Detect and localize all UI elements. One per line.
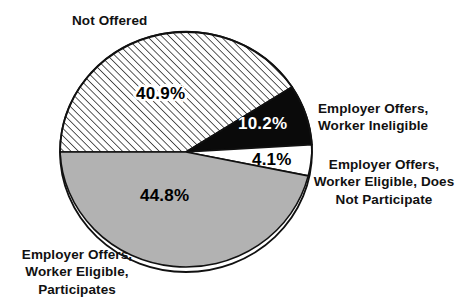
slice-value-employer-offers-worker-eligible-participates: 44.8% bbox=[140, 186, 189, 206]
slice-label-not-offered: Not Offered bbox=[72, 12, 147, 29]
slice-value-not-offered: 40.9% bbox=[136, 84, 185, 104]
slice-label-employer-offers-worker-ineligible: Employer Offers, Worker Ineligible bbox=[318, 100, 428, 135]
slice-value-employer-offers-worker-ineligible: 10.2% bbox=[238, 114, 287, 134]
slice-label-employer-offers-worker-eligible-participates: Employer Offers, Worker Eligible, Partic… bbox=[2, 246, 152, 298]
pie-chart-figure: Not Offered Employer Offers, Worker Inel… bbox=[0, 0, 473, 305]
slice-label-employer-offers-worker-eligible-does-not-participate: Employer Offers, Worker Eligible, Does N… bbox=[298, 156, 470, 208]
slice-value-employer-offers-worker-eligible-does-not-participate: 4.1% bbox=[252, 150, 292, 170]
